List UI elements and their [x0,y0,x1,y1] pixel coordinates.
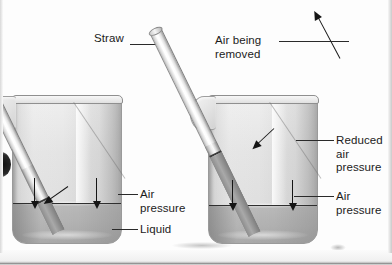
beaker-bottom-highlight [22,230,113,240]
label-air-pressure-left: Air pressure [140,188,186,215]
liquid-surface-line [13,203,121,204]
page-edge-left [0,0,3,253]
page-edge-bottom [0,261,392,265]
leader-reduced-air-pressure [296,140,334,141]
figure-canvas: Straw Air pressure Liquid [0,0,392,265]
air-pressure-arrow-left [34,178,35,202]
liquid-body [209,205,317,243]
leader-straw [130,44,156,45]
leader-air-pressure-left [118,194,138,195]
page-edge-right [388,0,392,253]
leader-air-pressure-right [294,196,334,197]
label-liquid: Liquid [140,223,171,237]
leader-liquid [112,229,138,230]
right-panel: Air being removed Reduced air pressure A… [196,0,392,253]
scan-artifact-smudge [172,242,232,249]
label-straw: Straw [94,32,124,46]
label-air-pressure-right: Air pressure [336,190,382,217]
air-pressure-arrow-right [292,180,293,204]
air-removed-arrow [318,18,340,59]
air-pressure-arrow-left [232,180,233,204]
label-reduced-air-pressure: Reduced air pressure [336,134,383,175]
beaker-rim [207,95,319,104]
left-panel: Straw Air pressure Liquid [0,0,196,253]
label-air-being-removed: Air being removed [215,34,261,61]
air-pressure-arrow-right [96,178,97,202]
liquid-surface-line [209,205,317,206]
leader-air-being-removed [279,41,349,42]
page-margin-bottom [0,250,392,261]
liquid-body [13,203,121,243]
beaker-bottom-highlight [218,230,309,240]
beaker-rim [11,95,123,104]
